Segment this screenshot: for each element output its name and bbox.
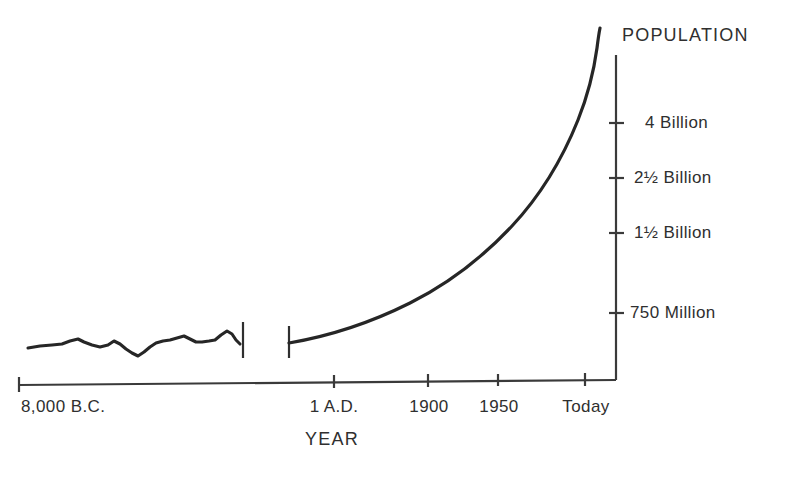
x-tick-label-1950: 1950	[479, 398, 518, 415]
x-axis-title: YEAR	[305, 430, 359, 448]
prehistoric-population-line	[28, 331, 240, 356]
x-tick-label-1ad: 1 A.D.	[310, 398, 359, 415]
y-tick-label-750-million: 750 Million	[630, 304, 716, 321]
x-tick-label-today: Today	[562, 398, 609, 415]
y-tick-label-2point5-billion: 2½ Billion	[634, 169, 712, 186]
y-tick-label-1point5-billion: 1½ Billion	[634, 224, 712, 241]
x-axis-line	[19, 380, 616, 385]
y-tick-label-4-billion: 4 Billion	[645, 114, 708, 131]
y-axis-title: POPULATION	[622, 26, 749, 44]
population-growth-curve	[289, 28, 600, 343]
x-tick-label-1900: 1900	[409, 398, 448, 415]
x-tick-label-8000bc: 8,000 B.C.	[21, 398, 105, 415]
population-chart: POPULATION 4 Billion 2½ Billion 1½ Billi…	[0, 0, 787, 478]
